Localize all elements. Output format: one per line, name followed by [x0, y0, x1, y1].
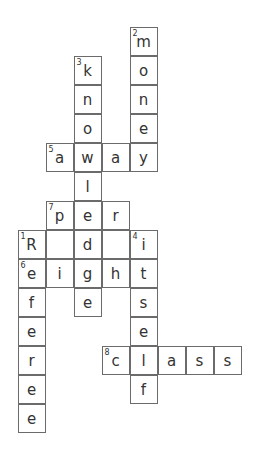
crossword-cell[interactable]: e — [130, 114, 158, 143]
crossword-cell[interactable]: 5a — [46, 143, 74, 172]
crossword-cell[interactable]: r — [18, 346, 46, 375]
cell-letter: c — [103, 352, 129, 370]
crossword-cell[interactable] — [102, 230, 130, 259]
cell-letter: s — [215, 352, 241, 370]
cell-letter: f — [131, 381, 157, 399]
crossword-cell[interactable]: 7p — [46, 201, 74, 230]
cell-letter: m — [131, 33, 157, 51]
cell-letter: e — [19, 410, 45, 428]
cell-letter: f — [19, 294, 45, 312]
crossword-cell[interactable]: e — [18, 317, 46, 346]
cell-letter: R — [19, 236, 45, 254]
cell-letter: e — [75, 207, 101, 225]
crossword-cell[interactable]: g — [74, 259, 102, 288]
cell-letter: l — [131, 352, 157, 370]
cell-letter: e — [19, 265, 45, 283]
crossword-cell[interactable]: o — [130, 56, 158, 85]
crossword-cell[interactable]: n — [130, 85, 158, 114]
crossword-cell[interactable]: s — [130, 288, 158, 317]
crossword-cell[interactable]: s — [214, 346, 242, 375]
cell-letter: e — [131, 323, 157, 341]
cell-letter: g — [75, 265, 101, 283]
crossword-cell[interactable]: w — [74, 143, 102, 172]
cell-letter: o — [131, 62, 157, 80]
crossword-cell[interactable]: a — [158, 346, 186, 375]
crossword-cell[interactable]: 8c — [102, 346, 130, 375]
cell-letter: s — [187, 352, 213, 370]
crossword-cell[interactable]: s — [186, 346, 214, 375]
crossword-cell[interactable]: e — [130, 317, 158, 346]
crossword-cell[interactable]: d — [74, 230, 102, 259]
crossword-cell[interactable]: o — [74, 114, 102, 143]
crossword-cell[interactable]: i — [46, 259, 74, 288]
crossword-cell[interactable]: 2m — [130, 27, 158, 56]
crossword-grid: 2money3knowledge5aa7pr1R4i6eihtfseer8cla… — [0, 0, 256, 452]
crossword-cell[interactable]: 6e — [18, 259, 46, 288]
cell-letter: i — [131, 236, 157, 254]
cell-letter: t — [131, 265, 157, 283]
crossword-cell[interactable]: e — [18, 404, 46, 433]
crossword-cell[interactable]: f — [130, 375, 158, 404]
cell-letter: r — [103, 207, 129, 225]
cell-letter: p — [47, 207, 73, 225]
cell-letter: e — [19, 323, 45, 341]
crossword-cell[interactable]: h — [102, 259, 130, 288]
cell-letter: n — [131, 91, 157, 109]
cell-letter: h — [103, 265, 129, 283]
crossword-cell[interactable]: e — [74, 201, 102, 230]
cell-letter: l — [75, 178, 101, 196]
cell-letter: y — [131, 149, 157, 167]
crossword-cell[interactable]: 1R — [18, 230, 46, 259]
crossword-cell[interactable]: n — [74, 85, 102, 114]
crossword-cell[interactable]: f — [18, 288, 46, 317]
crossword-cell[interactable]: t — [130, 259, 158, 288]
crossword-cell[interactable]: r — [102, 201, 130, 230]
crossword-cell[interactable]: 4i — [130, 230, 158, 259]
crossword-cell[interactable]: 3k — [74, 56, 102, 85]
cell-letter: e — [131, 120, 157, 138]
crossword-cell[interactable] — [46, 230, 74, 259]
cell-letter: w — [75, 149, 101, 167]
crossword-cell[interactable]: e — [74, 288, 102, 317]
cell-letter: e — [75, 294, 101, 312]
cell-letter: n — [75, 91, 101, 109]
cell-letter: a — [159, 352, 185, 370]
cell-letter: e — [19, 381, 45, 399]
cell-letter: s — [131, 294, 157, 312]
crossword-cell[interactable]: l — [74, 172, 102, 201]
crossword-cell[interactable]: a — [102, 143, 130, 172]
cell-letter: i — [47, 265, 73, 283]
crossword-cell[interactable]: e — [18, 375, 46, 404]
crossword-cell[interactable]: l — [130, 346, 158, 375]
crossword-cell[interactable]: y — [130, 143, 158, 172]
cell-letter: o — [75, 120, 101, 138]
cell-letter: r — [19, 352, 45, 370]
cell-letter: a — [103, 149, 129, 167]
cell-letter: a — [47, 149, 73, 167]
cell-letter: d — [75, 236, 101, 254]
cell-letter: k — [75, 62, 101, 80]
